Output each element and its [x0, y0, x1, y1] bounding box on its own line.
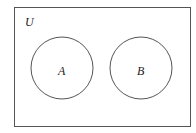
venn-diagram: U A B: [0, 0, 196, 133]
set-b-label: B: [137, 64, 145, 78]
universe-rectangle: [15, 8, 191, 127]
set-a-label: A: [57, 64, 66, 78]
universe-label: U: [25, 15, 35, 29]
